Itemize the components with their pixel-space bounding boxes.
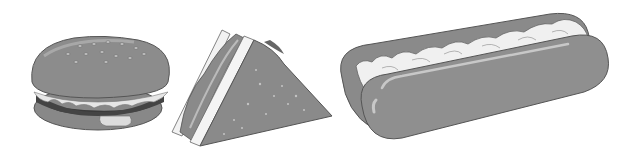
sandwich-image: Triangle sandwich [164, 24, 336, 152]
food-illustration: Hamburger [0, 0, 638, 154]
hamburger-image: Hamburger [14, 16, 174, 134]
hotdog-image: Hot dog / sub roll with lettuce [332, 8, 636, 146]
